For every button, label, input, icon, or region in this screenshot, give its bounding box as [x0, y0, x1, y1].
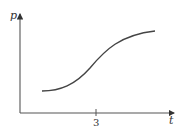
x-axis-label: t: [169, 114, 174, 127]
x-tick-label-3: 3: [93, 117, 99, 128]
logistic-curve: [42, 31, 155, 91]
y-axis-label: p: [10, 9, 17, 22]
chart: p t 3: [0, 0, 181, 135]
